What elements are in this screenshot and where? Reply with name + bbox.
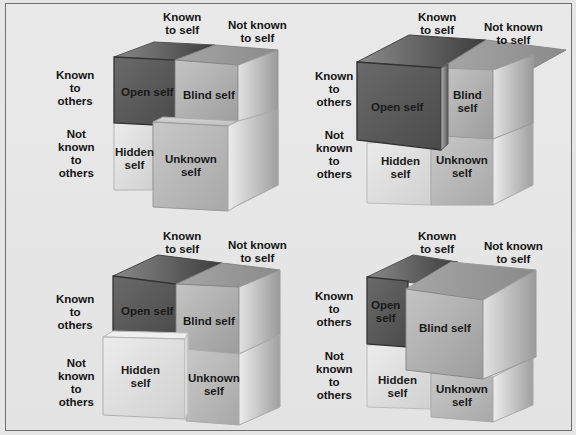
row-header-not-known-to-others: Notknowntoothers bbox=[58, 128, 94, 180]
unknown-side-face bbox=[228, 110, 278, 211]
quadrant-unknown-label: Unknownself bbox=[188, 372, 240, 398]
open-side-face bbox=[441, 64, 448, 150]
johari-panel-unknown-enlarged: Knownto self Not knownto self Knowntooth… bbox=[0, 0, 288, 217]
quadrant-hidden-label: Hiddenself bbox=[121, 364, 160, 390]
quadrant-hidden-label: Hiddenself bbox=[115, 146, 154, 172]
quadrant-open-label: Open self bbox=[121, 305, 173, 318]
col-header-not-known-to-self: Not knownto self bbox=[484, 21, 543, 47]
quadrant-open-label: Openself bbox=[371, 299, 400, 325]
row-header-not-known-to-others: Notknowntoothers bbox=[58, 357, 94, 409]
johari-panel-hidden-enlarged: Knownto self Not knownto self Knowntooth… bbox=[0, 217, 288, 434]
col-header-not-known-to-self: Not knownto self bbox=[228, 19, 287, 45]
col-header-not-known-to-self: Not knownto self bbox=[228, 239, 287, 265]
row-header-known-to-others: Knowntoothers bbox=[56, 293, 94, 332]
quadrant-blind-label: Blind self bbox=[419, 322, 471, 335]
quadrant-unknown-label: Unknownself bbox=[436, 154, 488, 180]
col-header-known-to-self: Knownto self bbox=[418, 11, 456, 37]
quadrant-blind-label: Blind self bbox=[183, 315, 235, 328]
quadrant-blind-label: Blindself bbox=[453, 89, 482, 115]
row-header-not-known-to-others: Notknowntoothers bbox=[316, 350, 352, 402]
row-header-known-to-others: Knowntoothers bbox=[56, 69, 94, 108]
quadrant-blind-label: Blind self bbox=[183, 89, 235, 102]
johari-panel-blind-enlarged: Knownto self Not knownto self Knowntooth… bbox=[288, 217, 576, 434]
col-header-known-to-self: Knownto self bbox=[163, 230, 201, 256]
quadrant-unknown-label: Unknownself bbox=[436, 383, 488, 409]
col-header-known-to-self: Knownto self bbox=[418, 230, 456, 256]
row-header-known-to-others: Knowntoothers bbox=[315, 290, 353, 329]
col-header-not-known-to-self: Not knownto self bbox=[484, 240, 543, 266]
johari-panel-open-enlarged: Knownto self Not knownto self Knowntooth… bbox=[288, 0, 576, 217]
row-header-not-known-to-others: Notknowntoothers bbox=[316, 129, 352, 181]
row-header-known-to-others: Knowntoothers bbox=[315, 70, 353, 109]
quadrant-unknown-label: Unknownself bbox=[165, 153, 217, 179]
quadrant-open-label: Open self bbox=[121, 86, 173, 99]
col-header-known-to-self: Knownto self bbox=[163, 11, 201, 37]
quadrant-hidden-label: Hiddenself bbox=[378, 374, 417, 400]
quadrant-open-label: Open self bbox=[371, 101, 423, 114]
quadrant-hidden-label: Hiddenself bbox=[381, 155, 420, 181]
